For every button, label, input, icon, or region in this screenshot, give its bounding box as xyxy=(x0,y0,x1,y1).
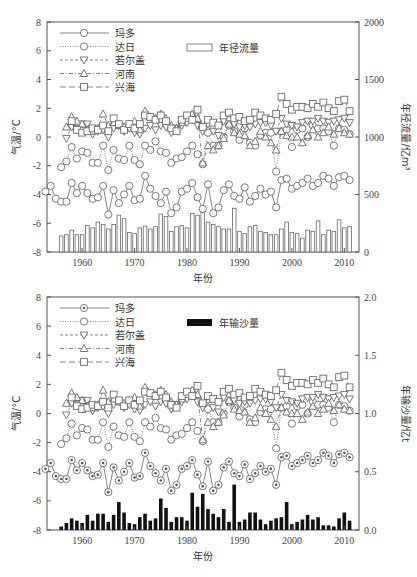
circle-marker xyxy=(84,189,91,196)
bar xyxy=(86,226,90,252)
triangle-up-marker xyxy=(99,386,107,393)
circle-marker xyxy=(314,179,321,186)
bar xyxy=(154,227,158,252)
bar-legend-swatch xyxy=(187,44,212,51)
bar xyxy=(322,525,326,530)
circle-marker xyxy=(346,177,353,184)
legend-label-1: 达日 xyxy=(115,42,135,53)
y-axis-label: 气温/°C xyxy=(10,119,22,154)
circle-center-dot xyxy=(280,456,283,459)
bar xyxy=(96,514,100,530)
circle-center-dot xyxy=(275,484,278,487)
circle-center-dot xyxy=(327,454,330,457)
bar xyxy=(206,222,210,252)
bar xyxy=(285,222,289,252)
bar xyxy=(217,517,221,530)
bar xyxy=(280,517,284,530)
circle-marker xyxy=(330,142,337,149)
circle-marker xyxy=(147,185,154,192)
square-marker xyxy=(136,397,143,404)
bar xyxy=(348,227,352,252)
bar xyxy=(112,515,116,530)
bar xyxy=(180,517,184,530)
y-tick-label: 4 xyxy=(36,350,41,361)
circle-marker xyxy=(288,420,295,427)
y-tick-label: 6 xyxy=(36,45,41,56)
circle-marker xyxy=(152,138,159,145)
bar xyxy=(149,229,153,252)
circle-marker xyxy=(236,195,243,202)
y-tick-label: -8 xyxy=(33,247,41,258)
bar xyxy=(190,493,194,530)
bar xyxy=(169,522,173,530)
bar xyxy=(169,231,173,252)
legend-label-3: 河南 xyxy=(115,68,135,80)
circle-center-dot xyxy=(107,491,110,494)
y-tick-label: 4 xyxy=(36,74,41,85)
bar xyxy=(128,523,132,530)
circle-marker xyxy=(330,419,337,426)
circle-center-dot xyxy=(139,475,142,478)
circle-marker xyxy=(105,166,112,173)
circle-center-dot xyxy=(81,462,84,465)
bar xyxy=(322,235,326,252)
bar xyxy=(107,522,111,530)
bar xyxy=(159,499,163,530)
bar xyxy=(348,521,352,530)
circle-center-dot xyxy=(191,459,194,462)
circle-marker xyxy=(215,204,222,211)
y-tick-label: -4 xyxy=(33,189,41,200)
circle-center-dot xyxy=(264,470,267,473)
circle-center-dot xyxy=(259,465,262,468)
y-tick-label: 8 xyxy=(36,292,41,303)
x-tick-label: 1980 xyxy=(177,257,197,268)
circle-marker xyxy=(246,198,253,205)
square-marker xyxy=(163,394,170,401)
triangle-down-marker xyxy=(346,396,354,403)
circle-marker xyxy=(94,436,101,443)
bar xyxy=(274,235,278,252)
bar xyxy=(65,235,69,252)
circle-center-dot xyxy=(83,307,86,310)
bar xyxy=(316,221,320,252)
circle-marker xyxy=(168,210,175,217)
bar xyxy=(253,226,257,252)
circle-center-dot xyxy=(296,462,299,465)
bar-legend-label: 年输沙量 xyxy=(219,317,259,329)
bar xyxy=(217,227,221,252)
square-marker xyxy=(105,404,112,411)
legend: 玛多达日若尔盖河南兴海年径流量 xyxy=(60,27,259,93)
square-marker xyxy=(173,404,180,411)
y2-tick-label: 500 xyxy=(364,189,379,200)
triangle-up-marker xyxy=(293,133,301,140)
y-tick-label: 6 xyxy=(36,321,41,332)
bar xyxy=(295,234,299,252)
y2-tick-label: 1500 xyxy=(364,74,384,85)
bar xyxy=(227,522,231,530)
series-0 xyxy=(42,449,353,496)
circle-marker xyxy=(267,188,274,195)
bar xyxy=(232,208,236,252)
circle-center-dot xyxy=(338,453,341,456)
bar xyxy=(222,229,226,252)
bar xyxy=(248,227,252,252)
x-tick-label: 1960 xyxy=(72,535,92,546)
bar xyxy=(243,234,247,252)
triangle-down-marker xyxy=(346,120,354,127)
circle-marker xyxy=(220,187,227,194)
circle-marker xyxy=(257,185,264,192)
circle-marker xyxy=(80,43,87,50)
circle-marker xyxy=(283,175,290,182)
x-tick-label: 1970 xyxy=(125,257,145,268)
square-marker xyxy=(194,106,201,113)
bar xyxy=(122,513,126,530)
square-marker xyxy=(81,359,88,366)
circle-center-dot xyxy=(270,468,273,471)
triangle-down-marker xyxy=(152,127,160,134)
circle-center-dot xyxy=(207,460,210,463)
bar xyxy=(138,228,142,252)
circle-marker xyxy=(183,148,190,155)
x-tick-label: 2000 xyxy=(282,535,302,546)
circle-marker xyxy=(136,438,143,445)
circle-marker xyxy=(120,191,127,198)
